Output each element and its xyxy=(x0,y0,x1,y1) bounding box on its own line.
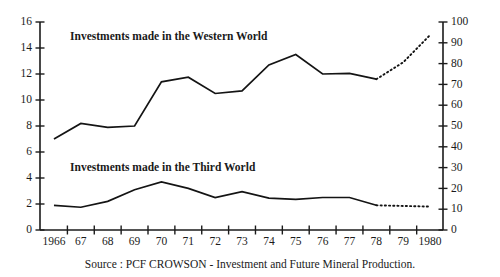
x-axis-tick-label: 67 xyxy=(75,235,87,247)
series-label-third-world: Investments made in the Third World xyxy=(70,161,256,173)
series-label-western-world: Investments made in the Western World xyxy=(70,30,268,42)
y-axis-right-tick-label: 60 xyxy=(451,98,463,110)
y-axis-left-tick-label: 10 xyxy=(21,93,33,105)
x-axis-tick-label: 78 xyxy=(371,235,383,247)
y-axis-right-tick-label: 80 xyxy=(451,57,463,69)
y-axis-right-tick-label: 50 xyxy=(451,119,463,131)
y-axis-right-tick-label: 10 xyxy=(451,202,463,214)
series-lines xyxy=(54,35,430,207)
series-line-solid-0 xyxy=(54,55,376,140)
y-axis-left-tick-label: 16 xyxy=(21,15,33,27)
y-axis-right-tick-label: 40 xyxy=(451,140,463,152)
x-axis-tick-label: 71 xyxy=(183,235,195,247)
y-axis-left-tick-label: 4 xyxy=(26,171,32,183)
chart-figure: 0246810121416 0102030405060708090100 196… xyxy=(0,0,500,277)
x-axis-tick-label: 68 xyxy=(102,235,114,247)
series-line-projected-1 xyxy=(376,205,430,206)
y-axis-left-tick-label: 12 xyxy=(21,67,33,79)
x-axis-tick-label: 73 xyxy=(236,235,248,247)
y-axis-right-tick-label: 20 xyxy=(451,182,463,194)
y-axis-right-tick-label: 0 xyxy=(451,223,457,235)
y-axis-left-tick-label: 0 xyxy=(26,223,32,235)
y-axis-left-tick-label: 2 xyxy=(26,197,32,209)
y-axis-left: 0246810121416 xyxy=(21,15,45,235)
x-axis-tick-label: 75 xyxy=(290,235,302,247)
y-axis-right-tick-label: 70 xyxy=(451,78,463,90)
y-axis-left-tick-label: 8 xyxy=(26,119,32,131)
x-axis-tick-label: 1966 xyxy=(42,235,65,247)
x-axis-tick-label: 72 xyxy=(209,235,221,247)
x-axis-tick-label: 1980 xyxy=(419,235,442,247)
y-axis-left-tick-label: 14 xyxy=(21,41,33,53)
y-axis-left-tick-label: 6 xyxy=(26,145,32,157)
x-axis-tick-label: 69 xyxy=(129,235,141,247)
source-caption: Source : PCF CROWSON - Investment and Fu… xyxy=(85,258,415,270)
x-axis-tick-label: 79 xyxy=(397,235,409,247)
x-axis-tick-label: 74 xyxy=(263,235,275,247)
x-axis: 1966676869707172737475767778791980 xyxy=(40,226,443,248)
x-axis-tick-label: 70 xyxy=(156,235,168,247)
y-axis-right-tick-label: 100 xyxy=(451,15,469,27)
y-axis-right: 0102030405060708090100 xyxy=(439,15,469,235)
series-line-solid-1 xyxy=(54,182,376,207)
series-line-projected-0 xyxy=(376,35,430,79)
x-axis-tick-label: 76 xyxy=(317,235,329,247)
x-axis-tick-label: 77 xyxy=(344,235,356,247)
y-axis-right-tick-label: 30 xyxy=(451,161,463,173)
line-chart-svg: 0246810121416 0102030405060708090100 196… xyxy=(0,0,500,277)
y-axis-right-tick-label: 90 xyxy=(451,36,463,48)
series-annotations: Investments made in the Western WorldInv… xyxy=(70,30,268,173)
